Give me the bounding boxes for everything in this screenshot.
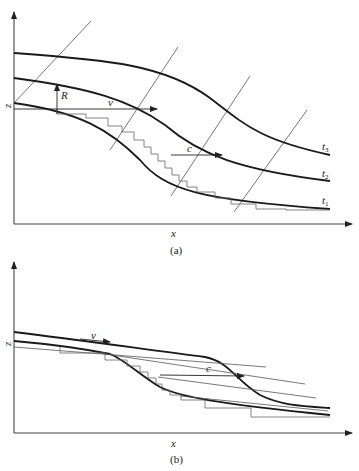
- curve-t1: [14, 103, 330, 209]
- characteristic-line-3: [171, 76, 250, 196]
- label-v-b: v: [91, 329, 96, 341]
- x-axis-label-b: x: [170, 437, 176, 449]
- characteristic-line-4: [234, 110, 307, 212]
- y-axis-label-b: z: [1, 341, 13, 347]
- curve-t3: [14, 53, 330, 155]
- figure: z R v c t3 t2 t1 x (a) z v c x (b): [0, 0, 359, 471]
- label-c-a: c: [187, 142, 192, 154]
- label-r: R: [60, 89, 68, 101]
- label-v-a: v: [108, 96, 113, 108]
- characteristic-line-1: [14, 21, 91, 103]
- characteristic-line-2: [110, 47, 178, 150]
- y-axis-label-a: z: [1, 103, 13, 109]
- x-axis-label-a: x: [170, 227, 176, 239]
- label-t2: t2: [322, 167, 329, 181]
- thin-line-4-b: [180, 396, 328, 411]
- curve-upper-b: [14, 332, 330, 408]
- caption-b: (b): [170, 453, 183, 466]
- caption-a: (a): [170, 244, 183, 257]
- label-t1: t1: [322, 194, 329, 208]
- celerity-arrow-c-b: [160, 375, 244, 376]
- thin-line-1-b: [14, 347, 266, 367]
- label-t3: t3: [322, 140, 329, 154]
- label-c-b: c: [206, 362, 211, 374]
- staircase-a: [57, 109, 330, 210]
- panel-b: z v c x (b): [1, 262, 352, 466]
- panel-a: z R v c t3 t2 t1 x (a): [1, 12, 352, 257]
